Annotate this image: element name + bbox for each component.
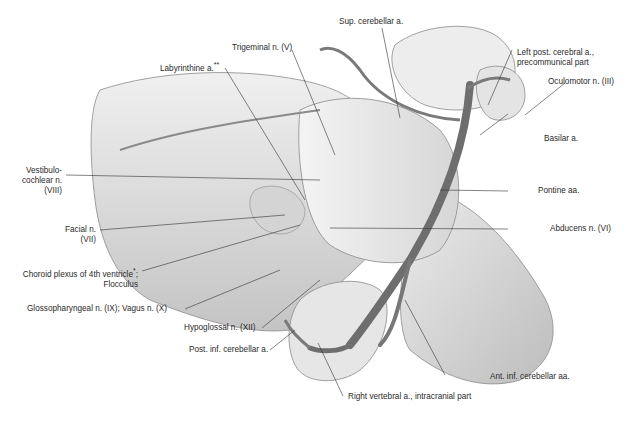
label-trigeminal-nerve: Trigeminal n. (V) [232, 43, 292, 53]
label-labyrinthine-artery: Labyrinthine a.** [160, 60, 219, 74]
label-sup-cerebellar-artery: Sup. cerebellar a. [339, 17, 403, 27]
label-choroid-plexus-flocculus: Choroid plexus of 4th ventricle*; Floccu… [10, 266, 138, 290]
label-line-2: (VII) [40, 235, 96, 245]
separator: ; [136, 270, 138, 279]
label-oculomotor-nerve: Oculomotor n. (III) [548, 77, 614, 87]
label-facial-nerve: Facial n. (VII) [40, 225, 96, 245]
footnote-mark: ** [214, 61, 219, 68]
label-line-1: Facial n. [40, 225, 96, 235]
label-line-1: Left post. cerebral a., [517, 48, 594, 58]
label-left-post-cerebral-artery: Left post. cerebral a., precommunical pa… [517, 48, 594, 68]
label-line-1: Vestibulo- [22, 166, 62, 176]
cerebral-peduncle [476, 66, 525, 120]
label-line-2: Flocculus [10, 280, 138, 290]
label-line-3: (VIII) [22, 186, 62, 196]
label-line-2: precommunical part [517, 58, 594, 68]
label-line-1: Choroid plexus of 4th ventricle*; [10, 266, 138, 280]
label-right-vertebral-artery: Right vertebral a., intracranial part [348, 392, 471, 402]
label-vestibulocochlear-nerve: Vestibulo- cochlear n. (VIII) [22, 166, 62, 196]
label-glossopharyngeal-vagus-nerve: Glossopharyngeal n. (IX); Vagus n. (X) [27, 304, 167, 314]
pons [299, 98, 459, 262]
label-choroid-text: Choroid plexus of 4th ventricle [23, 270, 133, 279]
label-basilar-artery: Basilar a. [544, 134, 578, 144]
label-post-inf-cerebellar-artery: Post. inf. cerebellar a. [189, 345, 268, 355]
anatomy-figure: Sup. cerebellar a. Trigeminal n. (V) Lab… [0, 0, 631, 422]
label-abducens-nerve: Abducens n. (VI) [550, 224, 611, 234]
label-hypoglossal-nerve: Hypoglossal n. (XII) [184, 323, 255, 333]
medulla-oblongata [289, 281, 387, 380]
label-labyrinthine-text: Labyrinthine a. [160, 64, 214, 73]
label-line-2: cochlear n. [22, 176, 62, 186]
label-pontine-arteries: Pontine aa. [538, 186, 579, 196]
label-ant-inf-cerebellar-arteries: Ant. inf. cerebellar aa. [490, 372, 570, 382]
